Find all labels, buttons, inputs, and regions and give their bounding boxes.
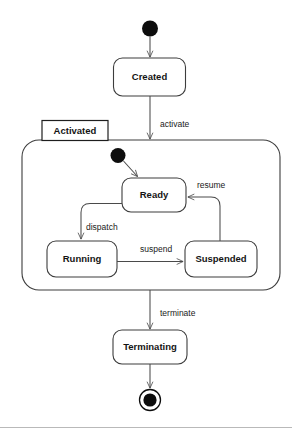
initial-state-top	[142, 21, 158, 37]
state-ready[interactable]: Ready	[122, 178, 186, 212]
state-running-label: Running	[63, 253, 102, 264]
uml-state-diagram: Created activate Activated Ready Running…	[0, 0, 292, 438]
final-state	[140, 390, 161, 411]
initial-state-activated	[111, 148, 126, 163]
state-terminating-label: Terminating	[123, 341, 177, 352]
region-activated-label: Activated	[54, 125, 97, 136]
transition-activate-label: activate	[160, 119, 190, 129]
state-terminating[interactable]: Terminating	[113, 330, 187, 364]
transition-resume-label: resume	[197, 180, 226, 190]
state-created[interactable]: Created	[114, 58, 186, 96]
state-created-label: Created	[132, 71, 168, 82]
transition-dispatch-label: dispatch	[86, 222, 118, 232]
state-diagram-canvas: Created activate Activated Ready Running…	[0, 0, 292, 438]
region-activated-tab: Activated	[42, 121, 108, 141]
transition-terminate-label: terminate	[160, 308, 196, 318]
final-state-core	[143, 393, 156, 406]
transition-suspend-label: suspend	[140, 244, 172, 254]
state-running[interactable]: Running	[47, 241, 117, 277]
state-ready-label: Ready	[140, 189, 169, 200]
state-suspended-label: Suspended	[195, 253, 246, 264]
state-suspended[interactable]: Suspended	[185, 241, 257, 277]
